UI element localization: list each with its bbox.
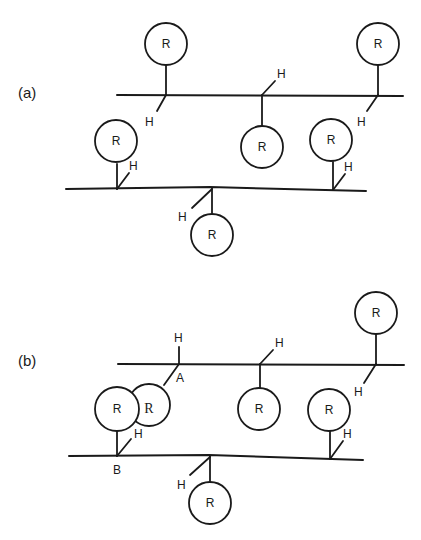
h-label: H: [277, 67, 286, 81]
r-group-label: R: [255, 402, 264, 416]
r-group-label: R: [327, 133, 336, 147]
h-label: H: [129, 159, 138, 173]
bond: [117, 439, 131, 456]
junction-a-label: A: [176, 371, 184, 385]
bond: [333, 174, 345, 190]
bond: [262, 81, 275, 95]
h-label: H: [178, 210, 187, 224]
bond: [117, 173, 129, 189]
h-label: H: [344, 160, 353, 174]
r-group-label: R: [208, 228, 217, 242]
panel-a-upper-chain: [117, 95, 403, 96]
h-label: H: [174, 331, 183, 345]
bond: [364, 364, 376, 383]
panel-b-label: (b): [18, 352, 36, 369]
r-group-label: R: [258, 140, 267, 154]
r-group-label: R: [372, 306, 381, 320]
r-group-label: R: [374, 37, 383, 51]
polymer-chain-diagram: (a) R H H R R H R H R H: [0, 0, 421, 540]
bond: [157, 95, 166, 111]
bond: [260, 350, 273, 364]
r-group-label: R: [112, 134, 121, 148]
panel-a-label: (a): [18, 84, 36, 101]
h-label: H: [357, 115, 366, 129]
h-label: H: [177, 478, 186, 492]
r-group-label-serif: R: [144, 401, 154, 416]
r-group-label: R: [113, 402, 122, 416]
junction-b-label: B: [113, 463, 121, 477]
bond: [330, 441, 343, 459]
h-label: H: [354, 385, 363, 399]
panel-a: (a) R H H R R H R H R H: [18, 23, 403, 256]
panel-b-lower-chain: [69, 455, 363, 460]
h-label: H: [343, 427, 352, 441]
r-group-label: R: [325, 403, 334, 417]
r-group-label: R: [162, 37, 171, 51]
r-group-label: R: [206, 496, 215, 510]
panel-a-lower-chain: [66, 187, 366, 191]
bond: [190, 457, 210, 475]
bond: [192, 189, 212, 208]
h-label: H: [145, 115, 154, 129]
h-label: H: [275, 336, 284, 350]
panel-b: (b) H A R R H R R H H B R: [18, 292, 404, 524]
bond: [367, 95, 378, 111]
h-label: H: [134, 427, 143, 441]
